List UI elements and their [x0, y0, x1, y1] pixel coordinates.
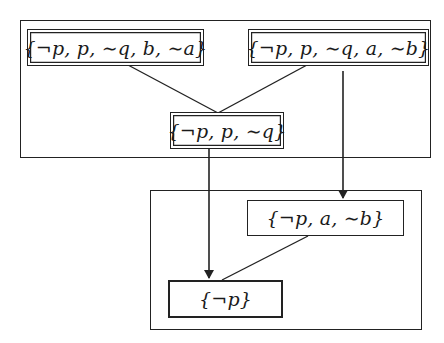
node-n3: {¬p, p, ∼q} [170, 112, 284, 149]
node-n2-label: {¬p, p, ∼q, a, ∼b} [247, 37, 431, 59]
node-n2: {¬p, p, ∼q, a, ∼b} [248, 29, 429, 66]
node-n1: {¬p, p, ∼q, b, ∼a} [27, 29, 204, 66]
edge-n2-n3 [218, 65, 307, 113]
node-n4: {¬p, a, ∼b} [247, 200, 404, 236]
edge-n1-n3 [128, 65, 218, 113]
node-n5-label: {¬p} [199, 288, 252, 310]
edge-n4-n5 [222, 236, 308, 280]
node-n1-label: {¬p, p, ∼q, b, ∼a} [24, 37, 208, 59]
node-n5: {¬p} [168, 280, 283, 318]
node-n4-label: {¬p, a, ∼b} [266, 207, 384, 229]
node-n3-label: {¬p, p, ∼q} [168, 120, 287, 142]
